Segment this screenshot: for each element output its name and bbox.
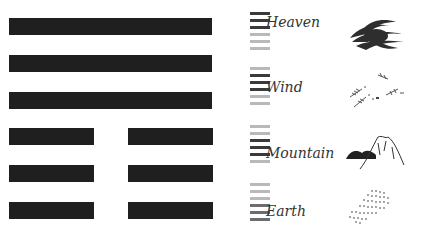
trigram-mini-line: [250, 125, 270, 128]
hexagram-line-1-solid: [9, 18, 212, 35]
trigram-mini-line: [250, 190, 270, 193]
hexagram-line-3-solid: [9, 92, 212, 109]
windblown-leaves-icon: [342, 67, 412, 109]
trigram-row-earth: Earth: [250, 183, 427, 225]
trigram-label: Wind: [266, 79, 303, 95]
trigram-mini-line: [250, 197, 270, 200]
trigram-row-heaven: Heaven: [250, 12, 427, 66]
hexagram-line-4-right: [128, 128, 213, 145]
trigram-label: Earth: [266, 203, 306, 219]
trigram-mini-line: [250, 67, 270, 70]
trigram-row-mountain: Mountain: [250, 125, 427, 179]
hexagram-line-5-left: [9, 165, 94, 182]
trigram-mini-line: [250, 132, 270, 135]
hexagram-line-6-left: [9, 202, 94, 219]
trigram-mini-line: [250, 95, 270, 98]
hexagram-line-5-right: [128, 165, 213, 182]
earth-field-icon: [342, 185, 412, 225]
trigram-row-wind: Wind: [250, 67, 427, 121]
trigram-mini-line: [250, 40, 270, 43]
trigram-mini-line: [250, 183, 270, 186]
trigram-mini-line: [250, 102, 270, 105]
hexagram-line-6-right: [128, 202, 213, 219]
hexagram-line-2-solid: [9, 55, 212, 72]
trigram-mini-line: [250, 139, 270, 142]
hexagram-line-4-left: [9, 128, 94, 145]
mountain-icon: [342, 133, 412, 175]
trigram-mini-line: [250, 33, 270, 36]
swirling-cloud-icon: [342, 12, 412, 54]
trigram-label: Heaven: [266, 14, 320, 30]
trigram-label: Mountain: [266, 145, 334, 161]
trigram-mini-line: [250, 47, 270, 50]
hexagram: [9, 0, 212, 225]
trigram-mini-line: [250, 74, 270, 77]
